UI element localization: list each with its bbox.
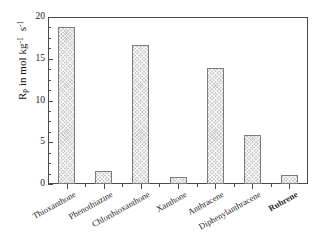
y-axis-tick-major <box>48 184 53 185</box>
y-axis-tick-minor <box>48 69 51 70</box>
y-axis-symbol-subscript: p <box>20 89 29 93</box>
y-axis-tick-label: 10 <box>36 96 46 106</box>
x-axis-tick-minor <box>122 184 123 187</box>
y-axis-unit-s: s <box>16 27 28 31</box>
y-axis-unit-kg: kg <box>16 44 28 55</box>
bar <box>58 27 75 184</box>
y-axis-title: Rpin molkg-1s-1 <box>15 0 32 135</box>
y-axis-tick-minor <box>48 174 51 175</box>
x-axis-tick-minor <box>271 184 272 187</box>
y-axis-text: in mol <box>16 58 28 86</box>
y-axis-symbol: R <box>16 93 28 100</box>
x-axis-tick-major <box>289 184 290 189</box>
y-axis-tick-major <box>48 59 53 60</box>
x-axis-tick-major <box>215 184 216 189</box>
y-axis-tick-minor <box>48 132 51 133</box>
y-axis-unit-s-exponent: -1 <box>16 21 25 27</box>
x-axis-tick-minor <box>159 184 160 187</box>
y-axis-tick-major <box>48 142 53 143</box>
x-axis-tick-minor <box>234 184 235 187</box>
y-axis-tick-minor <box>48 27 51 28</box>
y-axis-tick-minor <box>48 38 51 39</box>
y-axis-tick-label: 0 <box>40 179 45 189</box>
bars-container <box>48 17 308 184</box>
bar <box>281 175 298 184</box>
bar-chart: Rpin molkg-1s-1 05101520 ThioxanthonePhe… <box>0 0 325 242</box>
y-axis-tick-minor <box>48 48 51 49</box>
y-axis-unit-kg-exponent: -1 <box>16 37 25 43</box>
y-axis-tick-major <box>48 17 53 18</box>
x-axis-tick-major <box>104 184 105 189</box>
y-axis-tick-minor <box>48 163 51 164</box>
x-axis-tick-major <box>252 184 253 189</box>
y-axis-tick-minor <box>48 90 51 91</box>
bar <box>95 171 112 184</box>
bar <box>170 177 187 184</box>
bar <box>207 68 224 184</box>
y-axis-tick-minor <box>48 121 51 122</box>
y-axis-tick-major <box>48 101 53 102</box>
bar <box>132 45 149 184</box>
y-axis-tick-minor <box>48 153 51 154</box>
y-axis-tick-label: 20 <box>36 12 46 22</box>
x-axis-category-label: Xanthone <box>155 190 189 214</box>
x-axis-tick-major <box>67 184 68 189</box>
bar <box>244 135 261 184</box>
y-axis-tick-minor <box>48 80 51 81</box>
y-axis-tick-minor <box>48 111 51 112</box>
x-axis-tick-major <box>141 184 142 189</box>
x-axis-tick-major <box>178 184 179 189</box>
x-axis-tick-minor <box>85 184 86 187</box>
y-axis-tick-label: 5 <box>40 137 45 147</box>
x-axis-category-label: Rubrene <box>268 190 300 213</box>
y-axis-tick-label: 15 <box>36 54 46 64</box>
x-axis-tick-minor <box>197 184 198 187</box>
